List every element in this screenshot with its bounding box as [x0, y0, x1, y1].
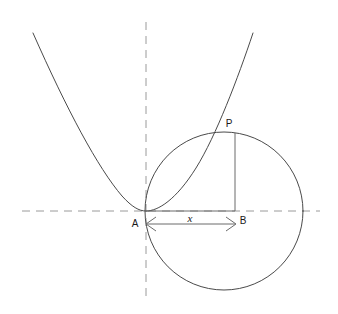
parabola-curve: [33, 33, 253, 211]
geometry-figure: A B P x: [0, 0, 338, 314]
label-point-p: P: [226, 118, 233, 129]
label-dimension-x: x: [187, 212, 193, 224]
label-point-a: A: [132, 218, 139, 229]
diagram-canvas: A B P x: [0, 0, 338, 314]
label-point-b: B: [240, 215, 247, 226]
